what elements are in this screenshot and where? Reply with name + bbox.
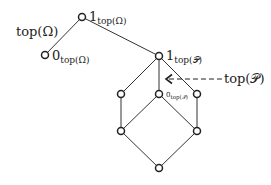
node-1-top-p bbox=[156, 53, 163, 60]
node-bottom bbox=[156, 165, 163, 172]
top-p-arrow bbox=[166, 75, 222, 84]
edge-lowleft-bottom bbox=[121, 131, 159, 168]
node-1-top-omega bbox=[79, 14, 86, 21]
node-low-right bbox=[194, 128, 201, 135]
node-low-left bbox=[118, 128, 125, 135]
label-0-top-omega: 0top(Ω) bbox=[52, 48, 90, 65]
node-0-top-p bbox=[156, 91, 163, 98]
label-top-omega: top(Ω) bbox=[16, 24, 58, 39]
edge-1p-midleft bbox=[121, 56, 159, 94]
node-mid-right bbox=[194, 91, 201, 98]
label-1-top-omega: 1top(Ω) bbox=[89, 9, 127, 26]
label-top-p: top(𝒫) bbox=[224, 71, 265, 86]
node-mid-left bbox=[118, 91, 125, 98]
edge-0p-lowright bbox=[159, 94, 197, 131]
edge-0p-lowleft bbox=[121, 94, 159, 131]
label-1-top-p: 1top(𝒫) bbox=[166, 48, 202, 65]
lattice-diagram: top(Ω) 1top(Ω) 0top(Ω) 1top(𝒫) 0top(𝒫) t… bbox=[0, 0, 271, 185]
node-0-top-omega bbox=[42, 52, 49, 59]
label-0-top-p: 0top(𝒫) bbox=[166, 91, 188, 101]
edge-lowright-bottom bbox=[159, 131, 197, 168]
